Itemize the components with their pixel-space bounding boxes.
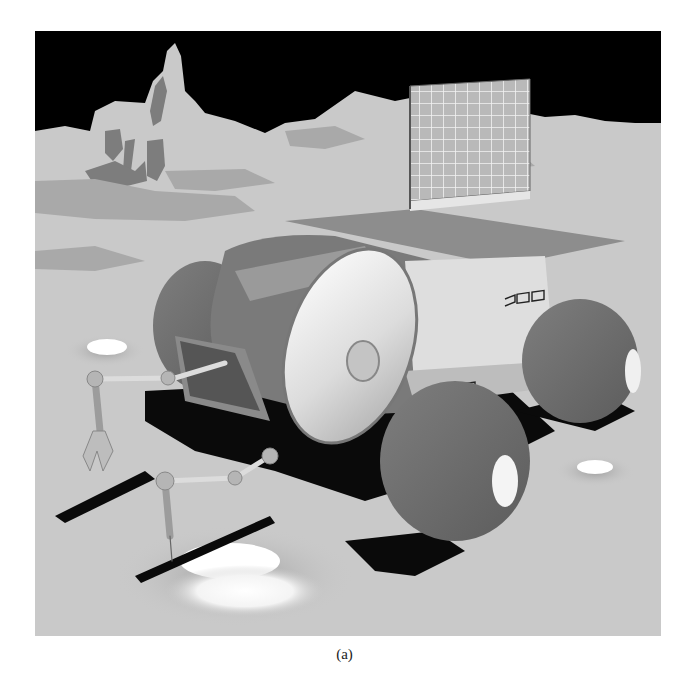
lunar-rover-illustration [35, 31, 661, 636]
wheel-front-left-hub [492, 455, 518, 507]
wheel-front-right [522, 299, 638, 423]
wheel-front-right-hub [625, 349, 641, 393]
figure-caption: (a) [0, 646, 689, 663]
hatch-hub [347, 341, 379, 381]
